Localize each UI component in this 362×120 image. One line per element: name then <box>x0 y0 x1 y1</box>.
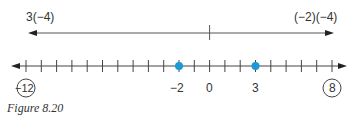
circled-label-8: 8 <box>329 81 336 95</box>
top-left-arrowhead-icon <box>28 30 37 36</box>
number-line-figure: 3(−4) (−2)(−4) −2 0 3 −12 8 Figure 8.20 <box>0 0 362 120</box>
axis-right-arrowhead-icon <box>338 63 347 69</box>
plotted-point <box>175 62 183 70</box>
plotted-point <box>252 62 260 70</box>
tick-label-3: 3 <box>252 81 259 95</box>
top-right-label: (−2)(−4) <box>294 10 337 24</box>
circled-label-neg12: −12 <box>15 81 34 95</box>
tick-label-neg2: −2 <box>170 81 184 95</box>
top-left-label: 3(−4) <box>26 10 54 24</box>
top-right-arrowhead-icon <box>325 30 334 36</box>
tick-label-0: 0 <box>206 81 213 95</box>
figure-caption: Figure 8.20 <box>7 101 63 116</box>
axis-left-arrowhead-icon <box>11 63 20 69</box>
